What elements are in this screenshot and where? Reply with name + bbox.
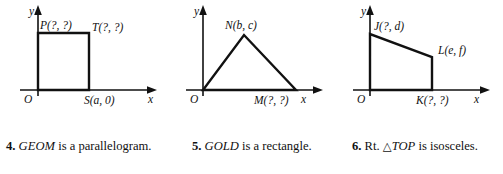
origin-label: O [190,93,199,105]
point-label-l: L(e, f) [437,44,466,57]
y-axis-label: y [193,5,200,18]
point-label-j: J(?, d) [374,20,404,33]
x-axis-arrowhead [313,86,323,94]
point-label-k: K(?, ?) [415,94,449,107]
x-axis-arrowhead [480,86,490,94]
caption-item-5: 5. GOLD is a rectangle. [192,138,312,154]
origin-label: O [24,93,33,105]
square-path [38,33,89,90]
figure-trapezoid-top: y x O J(?, d) L(e, f) K(?, ?) [334,0,503,128]
x-axis-label: x [300,93,307,105]
caption-figure-name: GEOM [19,139,55,153]
y-axis-arrowhead [366,5,374,15]
caption-figure-name: TOP [392,139,416,153]
caption-row: 4. GEOM is a parallelogram. 5. GOLD is a… [0,128,503,174]
caption-text: is isosceles. [415,139,478,153]
caption-text: is a rectangle. [239,139,312,153]
worksheet-page: y x O P(?, ?) T(?, ?) S(a, 0) [0,0,503,174]
figure-row: y x O P(?, ?) T(?, ?) S(a, 0) [0,0,503,128]
y-axis-label: y [360,5,367,18]
point-label-p: P(?, ?) [39,19,72,32]
point-label-m: M(?, ?) [253,94,289,107]
triangle-path [203,35,296,90]
figure-triangle-gold: y x O N(b, c) M(?, ?) [168,0,334,128]
y-axis-arrowhead [199,5,207,15]
point-label-t: T(?, ?) [92,21,123,34]
caption-figure-name: GOLD [205,139,239,153]
x-axis-label: x [147,93,154,105]
caption-text: is a parallelogram. [55,139,152,153]
triangle-icon: △ [383,139,392,153]
trapezoid-path [370,34,432,90]
caption-item-4: 4. GEOM is a parallelogram. [6,138,152,154]
x-axis-label: x [473,93,480,105]
caption-item-6: 6. Rt. △TOP is isosceles. [352,138,478,154]
y-axis-label: y [28,5,35,18]
figure-square-geom: y x O P(?, ?) T(?, ?) S(a, 0) [0,0,168,128]
y-axis-arrowhead [34,5,42,15]
point-label-n: N(b, c) [224,19,257,32]
caption-prefix: Rt. [365,139,383,153]
point-label-s: S(a, 0) [84,94,115,107]
origin-label: O [357,93,366,105]
